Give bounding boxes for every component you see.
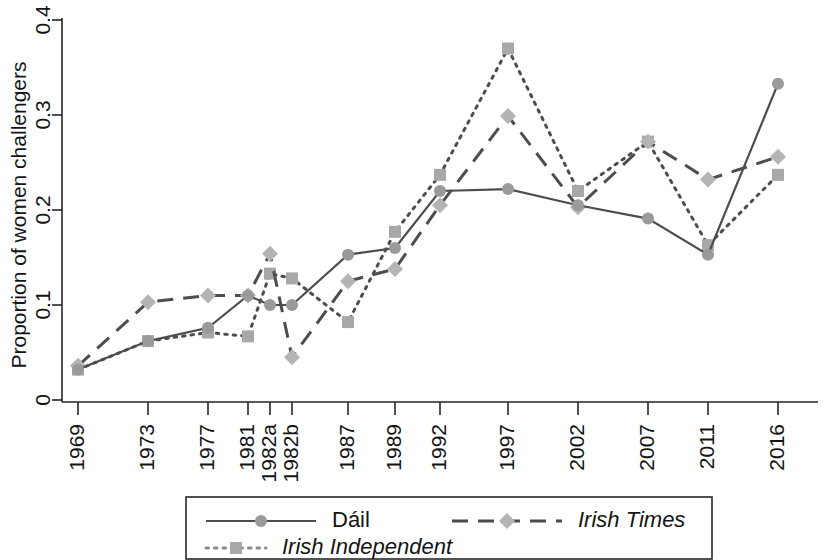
data-point	[242, 290, 254, 302]
data-point	[770, 149, 786, 165]
data-point	[284, 349, 300, 365]
y-axis-title: Proportion of women challengers	[7, 61, 30, 368]
y-tick-label-2: 0.2	[31, 195, 54, 224]
x-tick-label-1989: 1989	[382, 424, 405, 471]
x-tick-label-2011: 2011	[695, 424, 718, 469]
x-tick-label-1981: 1981	[235, 424, 258, 471]
x-axis-ticks: 1969 1973 1977 1981 1982a 1982b 1987 198…	[65, 402, 788, 482]
data-point	[700, 172, 716, 188]
x-tick-label-1969: 1969	[65, 424, 88, 471]
data-point	[502, 183, 514, 195]
data-point	[72, 364, 84, 376]
x-tick-label-1987: 1987	[335, 424, 358, 471]
x-tick-label-1977: 1977	[195, 424, 218, 471]
series-line	[78, 49, 778, 370]
line-chart: Proportion of women challengers 0 0.1 0.…	[0, 0, 828, 560]
series-irish-independent	[72, 43, 784, 376]
y-tick-label-3: 0.3	[31, 100, 54, 129]
x-tick-label-1982b: 1982b	[279, 424, 302, 482]
legend-marker	[230, 542, 242, 554]
data-point	[572, 185, 584, 197]
series-line	[78, 116, 778, 366]
x-tick-label-1997: 1997	[495, 424, 518, 471]
data-point	[286, 272, 298, 284]
legend-marker	[255, 515, 267, 527]
data-point	[142, 335, 154, 347]
data-point	[262, 246, 278, 262]
data-point	[342, 249, 354, 261]
series-line	[78, 84, 778, 370]
data-point	[340, 273, 356, 289]
y-tick-label-0: 0	[31, 394, 54, 406]
data-point	[572, 199, 584, 211]
x-tick-label-1992: 1992	[427, 424, 450, 471]
x-tick-label-1973: 1973	[135, 424, 158, 471]
data-point	[702, 249, 714, 261]
x-tick-label-2007: 2007	[635, 424, 658, 471]
data-point	[434, 169, 446, 181]
y-tick-label-4: 0.4	[31, 5, 54, 35]
series-d-il	[72, 78, 784, 376]
data-point	[264, 299, 276, 311]
x-tick-label-2016: 2016	[765, 424, 788, 471]
x-tick-label-2002: 2002	[565, 424, 588, 471]
y-axis-ticks: 0 0.1 0.2 0.3 0.4	[31, 5, 62, 406]
legend-label-irish-times: Irish Times	[578, 507, 685, 532]
data-point	[389, 226, 401, 238]
legend-label-dail: Dáil	[332, 507, 370, 532]
plot-series-layer	[70, 43, 786, 376]
data-point	[286, 299, 298, 311]
legend-label-irish-independent: Irish Independent	[282, 534, 453, 559]
chart-figure: Proportion of women challengers 0 0.1 0.…	[0, 0, 828, 560]
data-point	[642, 213, 654, 225]
chart-legend: Dáil Irish Times Irish Independent	[186, 497, 712, 559]
data-point	[772, 169, 784, 181]
data-point	[342, 316, 354, 328]
y-tick-label-1: 0.1	[31, 290, 54, 319]
data-point	[502, 43, 514, 55]
data-point	[772, 78, 784, 90]
data-point	[434, 185, 446, 197]
data-point	[389, 242, 401, 254]
data-point	[202, 322, 214, 334]
data-point	[200, 288, 216, 304]
data-point	[242, 330, 254, 342]
x-tick-label-1982a: 1982a	[257, 424, 280, 483]
